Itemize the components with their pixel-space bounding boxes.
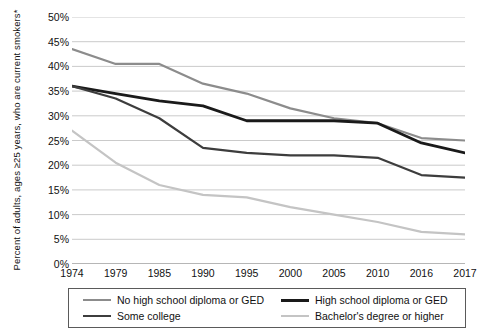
legend-item[interactable]: Some college bbox=[69, 310, 267, 322]
legend-label: Some college bbox=[117, 310, 181, 322]
y-axis-tick-label: 35% bbox=[48, 85, 69, 97]
y-axis-tick-label: 15% bbox=[48, 184, 69, 196]
legend-color-swatch bbox=[281, 315, 309, 317]
legend-item[interactable]: High school diploma or GED bbox=[267, 294, 465, 306]
series-line bbox=[72, 86, 465, 153]
x-axis-tick-label: 1974 bbox=[60, 267, 83, 279]
legend-color-swatch bbox=[281, 299, 309, 302]
y-axis-tick-label: 30% bbox=[48, 110, 69, 122]
y-axis-tick-label: 20% bbox=[48, 159, 69, 171]
x-axis-tick-label: 1979 bbox=[104, 267, 127, 279]
x-axis-tick-label: 2010 bbox=[366, 267, 389, 279]
legend-label: No high school diploma or GED bbox=[117, 294, 264, 306]
y-axis-tick-label: 45% bbox=[48, 36, 69, 48]
y-axis-title: Percent of adults, ages ≥25 years, who a… bbox=[11, 10, 23, 271]
y-axis-tick-labels: 50%45%40%35%30%25%20%15%10%5%0% bbox=[34, 0, 69, 280]
x-axis-tick-label: 1995 bbox=[235, 267, 258, 279]
legend: No high school diploma or GEDHigh school… bbox=[68, 288, 466, 328]
legend-item[interactable]: No high school diploma or GED bbox=[69, 294, 267, 306]
legend-color-swatch bbox=[83, 299, 111, 301]
x-axis-tick-label: 1985 bbox=[148, 267, 171, 279]
x-axis-tick-label: 2000 bbox=[279, 267, 302, 279]
y-axis-title-container: Percent of adults, ages ≥25 years, who a… bbox=[0, 0, 34, 280]
y-axis-tick-label: 5% bbox=[54, 233, 69, 245]
x-axis-tick-label: 1990 bbox=[191, 267, 214, 279]
plot-svg bbox=[72, 17, 465, 264]
smoking-by-education-line-chart: Percent of adults, ages ≥25 years, who a… bbox=[0, 0, 477, 335]
y-axis-tick-label: 25% bbox=[48, 135, 69, 147]
series-line bbox=[72, 131, 465, 235]
legend-label: Bachelor's degree or higher bbox=[315, 310, 444, 322]
x-axis-tick-label: 2017 bbox=[453, 267, 476, 279]
legend-item[interactable]: Bachelor's degree or higher bbox=[267, 310, 465, 322]
y-axis-tick-label: 50% bbox=[48, 11, 69, 23]
x-axis-tick-label: 2016 bbox=[410, 267, 433, 279]
x-axis-tick-label: 2005 bbox=[322, 267, 345, 279]
y-axis-tick-label: 10% bbox=[48, 209, 69, 221]
y-axis-tick-label: 40% bbox=[48, 60, 69, 72]
plot-area bbox=[72, 17, 465, 264]
legend-label: High school diploma or GED bbox=[315, 294, 447, 306]
legend-color-swatch bbox=[83, 315, 111, 317]
